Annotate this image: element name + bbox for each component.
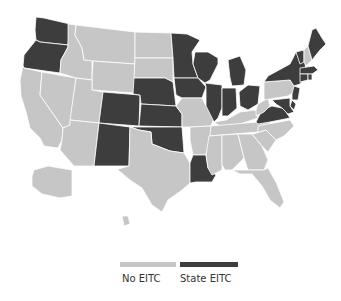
state-ri bbox=[308, 74, 312, 80]
state-mt bbox=[75, 25, 135, 64]
state-wy bbox=[92, 61, 135, 93]
state-in bbox=[222, 88, 237, 116]
state-ia bbox=[174, 78, 206, 98]
state-nj bbox=[292, 86, 300, 100]
legend-label-no-eitc: No EITC bbox=[122, 273, 161, 284]
state-wa bbox=[35, 17, 70, 45]
state-mi bbox=[228, 56, 246, 86]
state-ak bbox=[32, 166, 72, 198]
state-co bbox=[99, 92, 140, 126]
state-ct bbox=[300, 74, 308, 82]
legend-label-state-eitc: State EITC bbox=[180, 273, 231, 284]
state-ms bbox=[206, 135, 222, 175]
state-ks bbox=[139, 104, 182, 127]
state-me bbox=[308, 28, 326, 60]
state-hi bbox=[122, 216, 130, 226]
state-nd bbox=[135, 32, 173, 58]
legend-swatch-no-eitc bbox=[120, 262, 176, 267]
state-az bbox=[60, 120, 99, 166]
legend-swatch-state-eitc bbox=[180, 262, 238, 267]
state-nm bbox=[93, 123, 130, 166]
us-choropleth-map bbox=[0, 0, 341, 250]
state-fl bbox=[232, 168, 284, 208]
state-pa bbox=[264, 80, 294, 100]
legend: No EITC State EITC bbox=[120, 262, 240, 292]
